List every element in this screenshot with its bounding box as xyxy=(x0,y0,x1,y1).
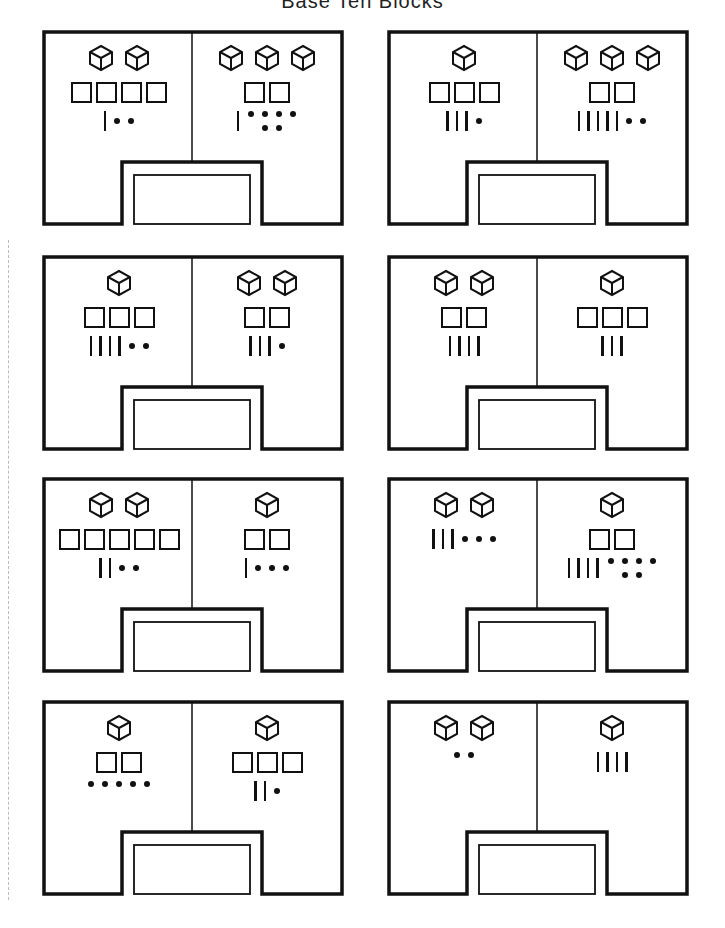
answer-box-input[interactable] xyxy=(134,845,250,894)
rod-line-icon xyxy=(104,111,107,131)
answer-box-input[interactable] xyxy=(134,175,250,224)
rod-line-icon xyxy=(577,558,580,578)
flat-square-icon xyxy=(479,82,500,103)
unit-dot-icon xyxy=(88,781,94,787)
unit-dot-icon xyxy=(274,788,280,794)
cube-group xyxy=(218,44,316,76)
rod-group xyxy=(104,111,107,131)
rod-line-icon xyxy=(442,529,445,549)
rod-group xyxy=(254,781,266,801)
unit-group xyxy=(129,343,149,349)
flat-square-icon xyxy=(244,529,265,550)
rod-line-icon xyxy=(587,111,590,131)
rod-line-icon xyxy=(109,336,112,356)
cube-icon xyxy=(254,491,280,523)
rod-line-icon xyxy=(477,336,480,356)
flat-square-icon xyxy=(429,82,450,103)
unit-group xyxy=(119,565,139,571)
answer-box-input[interactable] xyxy=(479,175,595,224)
flat-square-icon xyxy=(146,82,167,103)
left-quantity xyxy=(46,477,192,609)
unit-dot-icon xyxy=(255,565,261,571)
left-quantity xyxy=(391,477,537,609)
unit-dot-icon xyxy=(130,781,136,787)
answer-box-input[interactable] xyxy=(134,622,250,671)
flat-square-icon xyxy=(96,752,117,773)
cube-icon xyxy=(635,44,661,76)
margin-guide-line xyxy=(8,240,9,900)
rod-line-icon xyxy=(578,111,581,131)
rods-units-group xyxy=(237,111,298,131)
flat-square-icon xyxy=(282,752,303,773)
flat-square-icon xyxy=(96,82,117,103)
right-quantity xyxy=(194,700,340,832)
flat-group xyxy=(244,82,290,103)
answer-box-input[interactable] xyxy=(479,400,595,449)
cube-group xyxy=(236,269,298,301)
answer-box-input[interactable] xyxy=(479,622,595,671)
cube-icon xyxy=(106,269,132,301)
unit-dot-icon xyxy=(622,572,628,578)
cube-icon xyxy=(599,44,625,76)
answer-box-input[interactable] xyxy=(134,400,250,449)
rods-units-group xyxy=(432,529,496,549)
flat-square-icon xyxy=(109,529,130,550)
rod-group xyxy=(578,111,619,131)
flat-square-icon xyxy=(71,82,92,103)
flat-group xyxy=(441,307,487,328)
flat-square-icon xyxy=(257,752,278,773)
rods-units-group xyxy=(597,752,628,772)
rods-units-group xyxy=(578,111,647,131)
cube-group xyxy=(254,491,280,523)
rod-group xyxy=(245,558,248,578)
cube-icon xyxy=(290,44,316,76)
rod-group xyxy=(99,558,111,578)
flat-group xyxy=(589,82,635,103)
left-quantity xyxy=(46,30,192,162)
flat-group xyxy=(244,307,290,328)
flat-square-icon xyxy=(109,307,130,328)
rod-line-icon xyxy=(456,111,459,131)
unit-dot-icon xyxy=(462,536,468,542)
unit-group xyxy=(607,558,657,578)
unit-dot-icon xyxy=(262,125,268,131)
cube-group xyxy=(88,491,150,523)
unit-group xyxy=(626,118,646,124)
rods-units-group xyxy=(99,558,139,578)
unit-dot-icon xyxy=(636,558,642,564)
flat-square-icon xyxy=(84,529,105,550)
left-quantity xyxy=(391,700,537,832)
flat-group xyxy=(84,307,155,328)
unit-dot-icon xyxy=(636,572,642,578)
flat-square-icon xyxy=(269,307,290,328)
answer-box-input[interactable] xyxy=(479,845,595,894)
rod-line-icon xyxy=(587,558,590,578)
rod-line-icon xyxy=(90,336,93,356)
cube-icon xyxy=(236,269,262,301)
unit-group xyxy=(476,118,482,124)
cube-icon xyxy=(599,714,625,746)
unit-group xyxy=(247,111,297,131)
right-quantity xyxy=(194,255,340,387)
cube-group xyxy=(254,714,280,746)
rod-line-icon xyxy=(616,111,619,131)
rods-units-group xyxy=(104,111,135,131)
rod-line-icon xyxy=(264,781,267,801)
flat-square-icon xyxy=(121,752,142,773)
rod-line-icon xyxy=(249,336,252,356)
unit-dot-icon xyxy=(276,111,282,117)
cube-icon xyxy=(88,44,114,76)
rod-line-icon xyxy=(597,111,600,131)
unit-dot-icon xyxy=(128,118,134,124)
flat-square-icon xyxy=(244,82,265,103)
flat-square-icon xyxy=(627,307,648,328)
rod-line-icon xyxy=(597,752,600,772)
cube-group xyxy=(106,269,132,301)
flat-square-icon xyxy=(589,82,610,103)
rods-units-group xyxy=(245,558,290,578)
unit-dot-icon xyxy=(116,781,122,787)
unit-group xyxy=(462,536,496,542)
unit-dot-icon xyxy=(129,343,135,349)
right-quantity xyxy=(194,477,340,609)
rods-units-group xyxy=(568,558,657,578)
